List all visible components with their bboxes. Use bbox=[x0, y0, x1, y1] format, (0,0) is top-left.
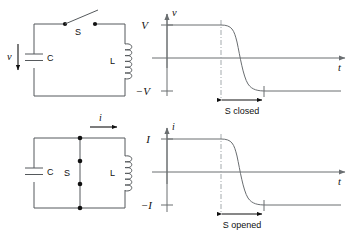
inductor-bottom bbox=[125, 156, 132, 191]
plot-v-ticklabel-positive: V bbox=[141, 19, 149, 31]
switch-node-4 bbox=[78, 206, 83, 211]
figure-root: C v S L C S bbox=[0, 0, 361, 239]
plot-i-ylabel: i bbox=[172, 121, 175, 132]
voltage-arrow-label: v bbox=[7, 51, 12, 62]
plot-v-xlabel: t bbox=[338, 62, 342, 73]
switch-terminal-right bbox=[93, 22, 97, 26]
diagram-canvas: C v S L C S bbox=[0, 0, 361, 239]
inductor-label-bottom: L bbox=[110, 168, 115, 178]
plot-i-ticklabel-positive: I bbox=[145, 133, 151, 145]
plot-v-annotation: S closed bbox=[225, 106, 260, 116]
switch-node-3 bbox=[78, 182, 83, 187]
switch-node-1 bbox=[78, 136, 83, 141]
circuit-bottom: C S i L bbox=[25, 112, 132, 210]
inductor-coil-path-b bbox=[125, 156, 132, 191]
plot-i-xlabel: t bbox=[338, 176, 342, 187]
switch-label-top: S bbox=[75, 27, 81, 37]
plot-v-ticklabel-negative: −V bbox=[136, 85, 151, 97]
inductor-coil-path bbox=[125, 44, 132, 79]
plot-v-ylabel: v bbox=[172, 7, 177, 18]
switch-label-bottom: S bbox=[64, 168, 70, 178]
plot-voltage: v t V −V S closed bbox=[136, 7, 345, 116]
plot-i-ticklabel-negative: −I bbox=[141, 199, 153, 211]
plot-i-annotation: S opened bbox=[223, 220, 262, 230]
circuit-top: C v S L bbox=[7, 10, 132, 96]
inductor-top bbox=[125, 44, 132, 79]
current-arrow-label: i bbox=[99, 112, 102, 123]
switch-blade-open bbox=[65, 10, 98, 24]
plot-current: i t I −I S opened bbox=[141, 121, 345, 230]
capacitor-label-bottom: C bbox=[47, 167, 54, 177]
switch-node-2 bbox=[78, 159, 83, 164]
capacitor-label-top: C bbox=[47, 53, 54, 63]
inductor-label-top: L bbox=[110, 56, 115, 66]
